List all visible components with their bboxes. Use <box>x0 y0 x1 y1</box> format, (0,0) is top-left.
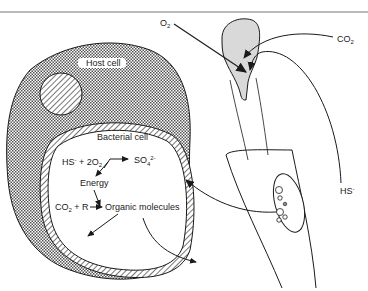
reaction1-reactants: HS- + 2O2 <box>62 157 103 168</box>
trophosome-link-arrow <box>186 180 276 212</box>
bacterial-cell-label: Bacterial cell <box>97 132 148 142</box>
hs-label: HS- <box>340 186 355 196</box>
co2-label: CO2 <box>337 34 355 45</box>
trophosome-cell <box>276 187 283 194</box>
hs-arrow <box>250 51 341 183</box>
worm-body-inner-right <box>256 78 268 155</box>
host-cell-label: Host cell <box>86 58 121 68</box>
host-nucleus <box>40 73 82 115</box>
worm-tube-opening <box>226 150 292 155</box>
worm-tube-left <box>226 155 282 288</box>
trophosome-cell <box>283 215 287 219</box>
reaction2-reactants: CO2 + R <box>55 202 89 213</box>
o2-label: O2 <box>160 18 171 29</box>
energy-label: Energy <box>80 178 109 188</box>
trophosome-cell <box>278 196 282 200</box>
trophosome-cell <box>283 202 287 206</box>
reaction2-product: Organic molecules <box>105 202 180 212</box>
tubeworm-symbiosis-diagram: Host cell Bacterial cell HS- + 2O2 SO42-… <box>0 0 368 291</box>
trophosome-cell <box>277 209 284 216</box>
trophosome-cell <box>277 218 281 222</box>
trophosome <box>268 170 311 235</box>
